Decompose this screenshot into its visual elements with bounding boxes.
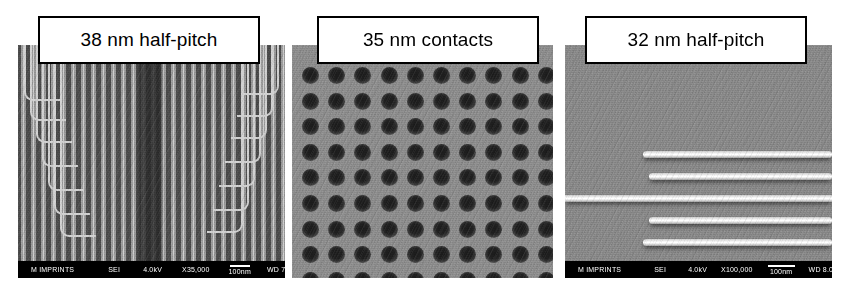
infobar-working-distance: WD 7.6mm [267,266,285,273]
sem-infobar-38nm: M IMPRINTS SEI 4.0kV X35,000 100nm WD 7.… [18,261,285,278]
caption-box-38nm: 38 nm half-pitch [38,16,260,64]
contact-hole [328,93,345,110]
contact-hole [407,221,424,238]
panel-38nm-bend-right [207,45,243,233]
contact-hole [433,221,450,238]
contact-hole [512,195,529,212]
contact-hole [433,195,450,212]
infobar-vendor: M IMPRINTS [578,266,621,273]
contact-hole [459,221,476,238]
infobar-voltage: 4.0kV [143,266,162,273]
contact-hole [407,195,424,212]
caption-box-35nm: 35 nm contacts [317,16,539,64]
contact-hole [538,118,553,135]
contact-hole [302,67,319,84]
panel-32nm-line [649,173,832,180]
contact-hole [512,169,529,186]
contact-hole [512,93,529,110]
contact-hole [485,221,502,238]
contact-hole [538,144,553,161]
infobar-magnification: X35,000 [182,266,209,273]
infobar-detector: SEI [654,266,666,273]
infobar-detector: SEI [108,266,120,273]
contact-hole [433,67,450,84]
contact-hole [381,93,398,110]
sem-micrograph-figure: M IMPRINTS SEI 4.0kV X35,000 100nm WD 7.… [0,0,850,292]
caption-text-32nm: 32 nm half-pitch [628,29,765,51]
infobar-voltage: 4.0kV [688,266,707,273]
infobar-vendor: M IMPRINTS [31,266,74,273]
infobar-scale: 100nm [770,268,792,275]
contact-hole [381,144,398,161]
contact-hole [407,93,424,110]
contact-hole [485,93,502,110]
contact-hole [354,93,371,110]
contact-hole [459,144,476,161]
contact-hole [433,144,450,161]
sem-panel-38nm-half-pitch[interactable]: M IMPRINTS SEI 4.0kV X35,000 100nm WD 7.… [18,45,285,278]
contact-hole [302,195,319,212]
contact-hole [328,221,345,238]
contact-hole [512,67,529,84]
contact-hole [538,93,553,110]
contact-hole [302,221,319,238]
panel-32nm-line-full [565,195,832,202]
contact-hole [512,246,529,263]
contact-hole [354,221,371,238]
contact-hole [381,67,398,84]
panel-38nm-dark-band [136,45,164,278]
infobar-scalebar-group: 100nm [768,265,795,275]
contact-hole [512,221,529,238]
contact-hole [512,144,529,161]
scale-bar-icon [768,265,795,267]
caption-text-35nm: 35 nm contacts [363,29,493,51]
contact-hole [302,93,319,110]
infobar-working-distance: WD 8.0mm [809,266,832,273]
contact-hole [538,195,553,212]
contact-hole [381,118,398,135]
contact-hole [302,144,319,161]
contact-hole [407,67,424,84]
panel-32nm-line [643,239,832,246]
panel-32nm-line [643,151,832,158]
contact-hole [407,246,424,263]
sem-panel-32nm-half-pitch[interactable]: M IMPRINTS SEI 4.0kV X100,000 100nm WD 8… [565,45,832,278]
contact-hole [381,246,398,263]
contact-hole [381,169,398,186]
contact-hole [407,118,424,135]
panel-38nm-bend-left [60,45,96,237]
sem-panel-35nm-contacts[interactable] [292,45,553,278]
contact-hole [381,195,398,212]
contact-hole [538,169,553,186]
contact-hole [538,67,553,84]
contact-hole [433,93,450,110]
sem-infobar-32nm: M IMPRINTS SEI 4.0kV X100,000 100nm WD 8… [565,261,832,278]
contact-hole [538,246,553,263]
infobar-magnification: X100,000 [721,266,753,273]
infobar-scale: 100nm [229,268,251,275]
caption-box-32nm: 32 nm half-pitch [585,16,807,64]
contact-hole [407,144,424,161]
caption-text-38nm: 38 nm half-pitch [81,29,218,51]
contact-hole [381,221,398,238]
infobar-scalebar-group: 100nm [229,265,251,275]
contact-hole [328,144,345,161]
scale-bar-icon [230,265,250,267]
contact-hole [538,221,553,238]
panel-32nm-line [649,217,832,224]
contact-hole [512,118,529,135]
contact-hole [459,93,476,110]
